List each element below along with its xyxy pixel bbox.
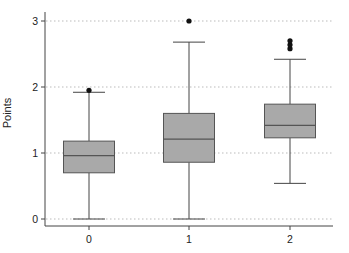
outlier-point (287, 38, 292, 43)
y-axis-title: Points (1, 97, 13, 128)
x-axis-ticks: 012 (86, 226, 293, 245)
box-1 (164, 18, 215, 219)
x-tick-label: 0 (86, 233, 92, 245)
y-axis-ticks: 0123 (32, 15, 45, 225)
iqr-box (64, 141, 115, 173)
box-2 (265, 38, 316, 183)
box-0 (64, 88, 115, 219)
iqr-box (265, 104, 316, 138)
box-plot-chart: 0123 012 Points (0, 0, 349, 253)
outlier-point (86, 88, 91, 93)
y-tick-label: 1 (32, 147, 38, 159)
outlier-point (186, 18, 191, 23)
y-tick-label: 0 (32, 213, 38, 225)
y-tick-label: 3 (32, 15, 38, 27)
boxes (64, 18, 316, 219)
iqr-box (164, 113, 215, 162)
x-tick-label: 1 (186, 233, 192, 245)
x-tick-label: 2 (287, 233, 293, 245)
y-tick-label: 2 (32, 81, 38, 93)
